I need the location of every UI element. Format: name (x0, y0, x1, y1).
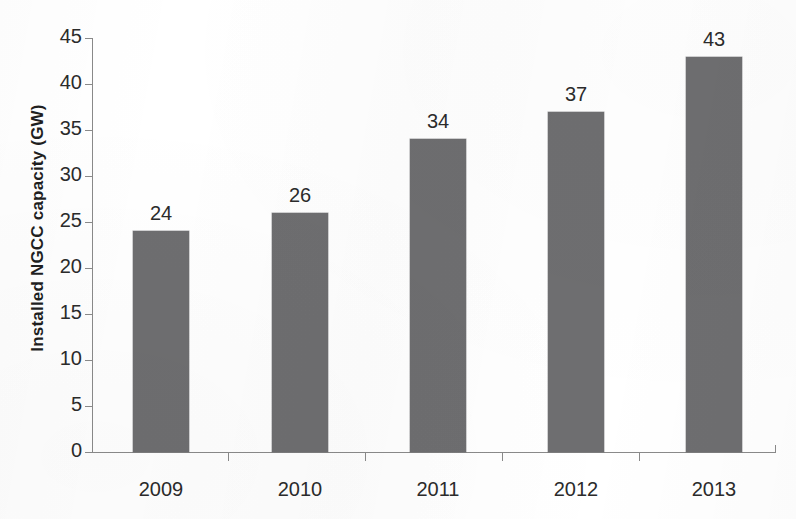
bar-value-2013: 43 (679, 28, 749, 51)
x-axis-label-2010: 2010 (245, 478, 355, 501)
y-tick-label-20: 20 (36, 255, 82, 278)
bar-2013[interactable] (686, 57, 742, 452)
bar-value-2010: 26 (265, 184, 335, 207)
bar-2011[interactable] (410, 139, 466, 452)
y-tick-35 (85, 130, 92, 131)
bar-2012[interactable] (548, 112, 604, 452)
bar-2010[interactable] (272, 213, 328, 452)
y-tick-label-40: 40 (36, 71, 82, 94)
y-tick-20 (85, 268, 92, 269)
bar-value-2012: 37 (541, 83, 611, 106)
y-tick-label-5: 5 (36, 393, 82, 416)
y-tick-label-30: 30 (36, 163, 82, 186)
x-tick-4 (639, 453, 640, 461)
x-tick-3 (502, 453, 503, 461)
y-tick-label-35: 35 (36, 117, 82, 140)
y-tick-45 (85, 38, 92, 39)
x-axis-label-2013: 2013 (659, 478, 769, 501)
y-tick-label-0: 0 (36, 439, 82, 462)
y-tick-label-45: 45 (36, 25, 82, 48)
y-tick-10 (85, 360, 92, 361)
y-tick-25 (85, 222, 92, 223)
bar-2009[interactable] (133, 231, 189, 452)
x-axis-line (92, 452, 776, 453)
x-axis-end-tick (775, 445, 776, 453)
x-axis-label-2012: 2012 (521, 478, 631, 501)
y-tick-0 (85, 452, 92, 453)
y-axis-line (92, 38, 93, 453)
y-tick-label-25: 25 (36, 209, 82, 232)
bar-value-2009: 24 (126, 202, 196, 225)
y-tick-5 (85, 406, 92, 407)
x-axis-label-2011: 2011 (383, 478, 493, 501)
x-tick-2 (365, 453, 366, 461)
y-tick-label-10: 10 (36, 347, 82, 370)
y-tick-15 (85, 314, 92, 315)
bar-chart: Installed NGCC capacity (GW) 45 40 35 30… (0, 0, 796, 519)
y-tick-40 (85, 84, 92, 85)
x-axis-label-2009: 2009 (106, 478, 216, 501)
bar-value-2011: 34 (403, 110, 473, 133)
plot-area: 45 40 35 30 25 20 15 10 5 0 24 26 (92, 38, 775, 452)
y-tick-label-15: 15 (36, 301, 82, 324)
x-tick-1 (228, 453, 229, 461)
y-tick-30 (85, 176, 92, 177)
